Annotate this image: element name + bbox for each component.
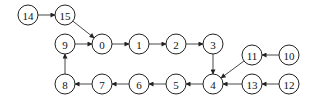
node-label: 15 — [60, 10, 72, 22]
node-label: 4 — [210, 79, 216, 91]
node-10: 10 — [279, 45, 299, 65]
node-label: 13 — [247, 79, 259, 91]
node-label: 1 — [136, 39, 142, 51]
node-1: 1 — [129, 34, 149, 54]
node-label: 0 — [99, 39, 105, 51]
node-label: 6 — [136, 79, 142, 91]
node-11: 11 — [242, 45, 262, 65]
node-label: 11 — [247, 50, 258, 62]
node-label: 3 — [210, 39, 216, 51]
nodes-layer: 0123456789101112131415 — [18, 5, 299, 94]
node-label: 8 — [62, 79, 68, 91]
node-label: 14 — [23, 10, 35, 22]
node-5: 5 — [166, 74, 186, 94]
node-2: 2 — [166, 34, 186, 54]
node-6: 6 — [129, 74, 149, 94]
node-label: 9 — [62, 39, 68, 51]
node-8: 8 — [55, 74, 75, 94]
edge-15-to-0 — [73, 21, 94, 38]
edge-11-to-4 — [221, 61, 244, 78]
node-9: 9 — [55, 34, 75, 54]
node-15: 15 — [55, 5, 75, 25]
node-4: 4 — [203, 74, 223, 94]
node-0: 0 — [92, 34, 112, 54]
node-7: 7 — [92, 74, 112, 94]
node-label: 10 — [284, 50, 296, 62]
node-label: 7 — [99, 79, 105, 91]
node-12: 12 — [279, 74, 299, 94]
node-label: 12 — [284, 79, 295, 91]
node-14: 14 — [18, 5, 38, 25]
node-label: 5 — [173, 79, 179, 91]
node-3: 3 — [203, 34, 223, 54]
directed-graph: 0123456789101112131415 — [0, 0, 313, 102]
node-label: 2 — [173, 39, 179, 51]
edges-layer — [38, 15, 279, 84]
node-13: 13 — [242, 74, 262, 94]
